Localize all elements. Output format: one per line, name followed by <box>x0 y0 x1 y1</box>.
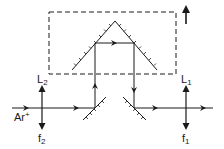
lens1-subscript: 1 <box>187 78 191 87</box>
lens-l1-label: L1 <box>181 74 192 87</box>
optical-diagram: Ar+ L2 f2 L1 f1 <box>0 0 224 149</box>
source-superscript: + <box>25 110 30 119</box>
roof-mirror <box>72 21 157 70</box>
focal-f2-label: f2 <box>38 133 46 146</box>
lens-l2-label: L2 <box>37 74 48 87</box>
f2-subscript: 2 <box>41 137 45 146</box>
source-label: Ar <box>14 111 25 123</box>
f1-subscript: 1 <box>185 137 189 146</box>
ar-laser-label: Ar+ <box>14 111 30 123</box>
lens2-subscript: 2 <box>43 78 47 87</box>
focal-f1-label: f1 <box>182 133 190 146</box>
translation-arrow-icon <box>182 5 190 24</box>
